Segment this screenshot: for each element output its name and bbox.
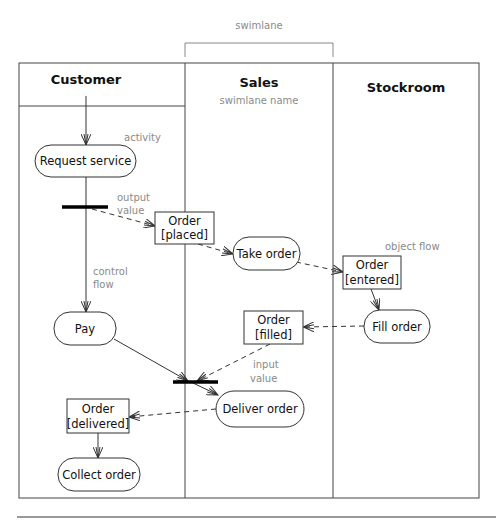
svg-text:[entered]: [entered] <box>345 273 399 287</box>
svg-text:Fill order: Fill order <box>372 320 422 334</box>
object-flow-deliver-to-delivered <box>129 409 216 417</box>
svg-text:Take order: Take order <box>236 247 297 261</box>
object-flow-take-order-to-entered <box>296 262 343 272</box>
svg-text:Order: Order <box>82 402 115 416</box>
object-order-entered[interactable]: Order [entered] <box>343 256 401 289</box>
object-order-delivered[interactable]: Order [delivered] <box>67 399 129 433</box>
activity-diagram: swimlane Customer Sales Stockroom swimla… <box>0 0 496 521</box>
flow-entered-to-fill-order <box>371 289 379 310</box>
control-flow-annotation-line2: flow <box>93 279 114 290</box>
output-value-annotation-line2: value <box>117 205 144 216</box>
svg-text:[delivered]: [delivered] <box>67 417 129 431</box>
object-order-filled[interactable]: Order [filled] <box>244 311 303 344</box>
input-value-annotation-line1: input <box>253 359 279 370</box>
activity-fill-order[interactable]: Fill order <box>364 310 430 343</box>
activity-annotation: activity <box>124 132 161 143</box>
svg-text:Collect order: Collect order <box>62 468 136 482</box>
svg-text:Deliver order: Deliver order <box>222 402 298 416</box>
input-value-annotation-line2: value <box>250 373 277 384</box>
object-flow-fill-order-to-filled <box>303 326 364 327</box>
svg-text:Request service: Request service <box>40 154 132 168</box>
control-flow-pay-to-join <box>114 339 188 381</box>
activity-deliver-order[interactable]: Deliver order <box>216 391 304 427</box>
svg-text:Order: Order <box>356 258 389 272</box>
lane-title-sales[interactable]: Sales <box>239 75 278 90</box>
object-flow-placed-to-take-order <box>198 244 233 254</box>
svg-text:[filled]: [filled] <box>255 328 292 342</box>
output-value-annotation-line1: output <box>117 192 150 203</box>
control-flow-annotation-line1: control <box>93 266 128 277</box>
activity-request-service[interactable]: Request service <box>35 145 136 177</box>
activity-take-order[interactable]: Take order <box>233 237 300 270</box>
svg-text:Order: Order <box>257 313 290 327</box>
flow-join-to-deliver <box>193 383 218 395</box>
svg-text:Pay: Pay <box>75 322 95 336</box>
svg-text:Order: Order <box>168 214 201 228</box>
activity-pay[interactable]: Pay <box>54 312 116 345</box>
lane-title-stockroom[interactable]: Stockroom <box>367 80 446 95</box>
swimlane-annotation: swimlane <box>235 20 282 31</box>
swimlane-name-annotation: swimlane name <box>220 95 299 106</box>
swimlane-bracket <box>185 43 333 57</box>
lane-title-customer[interactable]: Customer <box>51 72 122 87</box>
activity-collect-order[interactable]: Collect order <box>58 458 140 491</box>
object-flow-annotation: object flow <box>385 241 440 252</box>
svg-text:[placed]: [placed] <box>161 228 208 242</box>
object-order-placed[interactable]: Order [placed] <box>155 212 214 244</box>
